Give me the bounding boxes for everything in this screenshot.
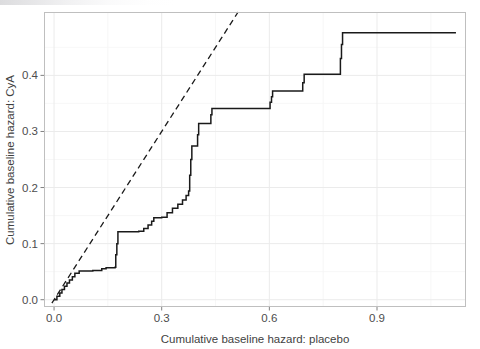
figure-container: 0.00.30.60.9 0.00.10.20.30.4 Cumulative … (0, 0, 480, 349)
y-tick-label: 0.0 (22, 294, 38, 306)
y-axis-tick-labels: 0.00.10.20.30.4 (22, 69, 39, 305)
cropped-text-artifact (0, 0, 175, 5)
x-axis-title: Cumulative baseline hazard: placebo (161, 333, 350, 345)
x-tick-label: 0.3 (154, 312, 170, 324)
y-tick-label: 0.4 (22, 69, 39, 81)
y-tick-label: 0.1 (22, 238, 38, 250)
x-tick-label: 0.6 (261, 312, 277, 324)
qq-style-cumulative-hazard-chart: 0.00.30.60.9 0.00.10.20.30.4 Cumulative … (0, 0, 480, 349)
y-axis-title: Cumulative baseline hazard: CyA (4, 75, 16, 245)
x-tick-label: 0.9 (369, 312, 385, 324)
y-tick-label: 0.2 (22, 182, 38, 194)
y-tick-label: 0.3 (22, 125, 38, 137)
x-tick-label: 0.0 (46, 312, 62, 324)
x-axis-tick-labels: 0.00.30.60.9 (46, 312, 385, 324)
